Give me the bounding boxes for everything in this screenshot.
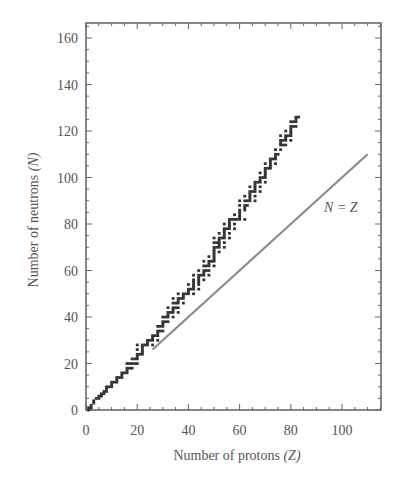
y-tick-label: 60 (64, 264, 78, 279)
plot-frame (86, 23, 381, 410)
x-axis-label-symbol: (Z) (283, 448, 300, 464)
axis-ticks (86, 23, 381, 410)
y-tick-label: 120 (57, 124, 78, 139)
stable-nuclei-band (87, 116, 300, 412)
y-tick-label: 0 (71, 403, 78, 418)
y-axis-label: Number of neutrons (N) (26, 152, 42, 287)
y-tick-label: 100 (57, 171, 78, 186)
x-tick-label: 0 (83, 423, 90, 438)
x-axis-label-text: Number of protons (173, 448, 283, 463)
y-tick-label: 20 (64, 357, 78, 372)
x-tick-label: 20 (130, 423, 144, 438)
x-tick-label: 60 (233, 423, 247, 438)
y-tick-label: 80 (64, 217, 78, 232)
x-axis-label: Number of protons (Z) (173, 448, 300, 464)
tick-labels: 020406080100020406080100120140160 (57, 31, 353, 438)
x-tick-label: 100 (332, 423, 353, 438)
x-tick-label: 40 (181, 423, 195, 438)
chart-svg: 020406080100020406080100120140160 N = Z … (0, 0, 401, 484)
y-axis-label-symbol: (N) (26, 152, 42, 171)
y-tick-label: 140 (57, 78, 78, 93)
n-equals-z-label: N = Z (323, 200, 358, 215)
y-axis-label-text: Number of neutrons (26, 171, 41, 287)
x-tick-label: 80 (284, 423, 298, 438)
y-tick-label: 40 (64, 310, 78, 325)
y-tick-label: 160 (57, 31, 78, 46)
